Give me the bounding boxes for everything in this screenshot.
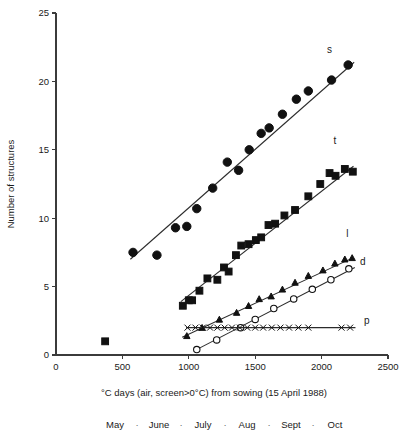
data-point-t bbox=[238, 242, 245, 249]
data-point-t bbox=[281, 212, 288, 219]
series-label-d: d bbox=[360, 256, 366, 267]
data-point-d bbox=[213, 337, 219, 343]
fit-line-s bbox=[130, 62, 354, 259]
data-point-s bbox=[129, 248, 137, 256]
data-point-d bbox=[346, 266, 352, 272]
data-point-s bbox=[344, 61, 352, 69]
data-point-l bbox=[256, 296, 262, 302]
series-layer bbox=[102, 61, 356, 353]
month-axis: May·June·July·Aug·Sept·Oct bbox=[106, 419, 343, 430]
month-label-june: June bbox=[149, 419, 170, 430]
data-point-l bbox=[332, 260, 338, 266]
month-label-sept: Sept bbox=[281, 419, 301, 430]
month-label-oct: Oct bbox=[328, 419, 343, 430]
month-separator: · bbox=[223, 419, 226, 430]
data-point-l bbox=[349, 255, 355, 261]
data-point-t bbox=[102, 338, 109, 345]
data-point-l bbox=[305, 272, 311, 278]
series-p bbox=[184, 325, 355, 331]
data-point-s bbox=[278, 110, 286, 118]
axis-titles: °C days (air, screen>0°C) from sowing (1… bbox=[5, 139, 327, 398]
month-label-may: May bbox=[106, 419, 124, 430]
data-point-t bbox=[189, 297, 196, 304]
data-point-s bbox=[304, 87, 312, 95]
x-tick-label: 1000 bbox=[178, 361, 199, 372]
data-point-s bbox=[183, 222, 191, 230]
y-tick-label: 0 bbox=[44, 349, 49, 360]
series-label-l: l bbox=[346, 228, 348, 239]
scatter-chart: 051015202505001000150020002500 stldp °C … bbox=[0, 0, 408, 443]
y-tick-label: 10 bbox=[38, 213, 49, 224]
data-point-t bbox=[305, 193, 312, 200]
data-point-t bbox=[233, 252, 240, 259]
data-point-t bbox=[245, 241, 252, 248]
y-tick-label: 25 bbox=[38, 7, 49, 18]
data-point-t bbox=[258, 234, 265, 241]
data-point-t bbox=[317, 181, 324, 188]
series-label-t: t bbox=[334, 135, 337, 146]
data-point-t bbox=[292, 207, 299, 214]
data-point-t bbox=[272, 220, 279, 227]
data-point-s bbox=[209, 184, 217, 192]
x-tick-label: 2000 bbox=[311, 361, 332, 372]
x-tick-label: 500 bbox=[114, 361, 130, 372]
data-point-d bbox=[309, 286, 315, 292]
series-label-s: s bbox=[327, 44, 332, 55]
data-point-l bbox=[292, 279, 298, 285]
y-axis-title: Number of structures bbox=[5, 139, 16, 228]
month-separator: · bbox=[311, 419, 314, 430]
data-point-s bbox=[257, 129, 265, 137]
data-point-s bbox=[245, 146, 253, 154]
month-separator: · bbox=[267, 419, 270, 430]
month-separator: · bbox=[135, 419, 138, 430]
data-point-t bbox=[349, 168, 356, 175]
x-tick-label: 0 bbox=[53, 361, 58, 372]
data-point-t bbox=[341, 166, 348, 173]
data-point-t bbox=[214, 276, 221, 283]
series-labels: stldp bbox=[327, 44, 370, 326]
data-point-s bbox=[193, 204, 201, 212]
data-point-s bbox=[234, 166, 242, 174]
month-label-july: July bbox=[195, 419, 212, 430]
data-point-l bbox=[342, 256, 348, 262]
data-point-s bbox=[265, 124, 273, 132]
data-point-s bbox=[153, 251, 161, 259]
x-axis-title: °C days (air, screen>0°C) from sowing (1… bbox=[101, 387, 327, 398]
series-label-p: p bbox=[364, 315, 370, 326]
data-point-t bbox=[332, 172, 339, 179]
data-point-t bbox=[196, 287, 203, 294]
data-point-t bbox=[225, 268, 232, 275]
month-label-aug: Aug bbox=[239, 419, 256, 430]
x-tick-label: 2500 bbox=[377, 361, 398, 372]
month-separator: · bbox=[179, 419, 182, 430]
data-point-s bbox=[223, 158, 231, 166]
data-point-t bbox=[204, 275, 211, 282]
data-point-s bbox=[171, 224, 179, 232]
data-point-d bbox=[252, 316, 258, 322]
series-s bbox=[129, 61, 354, 260]
data-point-d bbox=[328, 277, 334, 283]
y-tick-label: 15 bbox=[38, 144, 49, 155]
plot-area: 051015202505001000150020002500 stldp bbox=[38, 7, 398, 372]
data-point-s bbox=[292, 95, 300, 103]
data-point-t bbox=[265, 222, 272, 229]
x-tick-label: 1500 bbox=[245, 361, 266, 372]
series-t bbox=[102, 166, 356, 345]
data-point-l bbox=[320, 267, 326, 273]
y-tick-label: 20 bbox=[38, 76, 49, 87]
data-point-d bbox=[271, 305, 277, 311]
chart-figure: 051015202505001000150020002500 stldp °C … bbox=[0, 0, 408, 443]
data-point-s bbox=[327, 76, 335, 84]
y-tick-label: 5 bbox=[44, 281, 49, 292]
data-point-d bbox=[291, 296, 297, 302]
data-point-d bbox=[194, 346, 200, 352]
data-point-l bbox=[268, 293, 274, 299]
